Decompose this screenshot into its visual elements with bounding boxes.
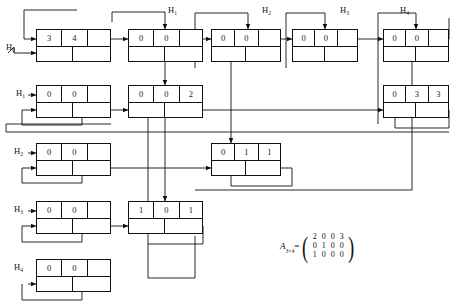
node-cell: 4 — [62, 30, 87, 46]
list-node[interactable]: 00 — [36, 201, 111, 234]
node-top-row: 00 — [37, 144, 110, 161]
node-bottom-row — [37, 219, 110, 235]
node-pointer-cell — [37, 277, 73, 293]
node-bottom-row — [37, 161, 110, 177]
list-node[interactable]: 00 — [36, 85, 111, 118]
node-pointer-cell — [246, 161, 280, 177]
node-cell — [180, 30, 202, 46]
matrix-row: 1000 — [310, 251, 346, 260]
head-pointer-label: H4 — [14, 262, 23, 272]
node-cell — [338, 30, 357, 46]
list-node[interactable]: 00 — [211, 29, 281, 62]
head-pointer-label: H1 — [16, 88, 25, 98]
node-cell: 0 — [384, 86, 406, 102]
node-cell — [88, 260, 110, 276]
node-pointer-cell — [37, 103, 73, 119]
node-pointer-cell — [129, 219, 165, 235]
node-pointer-cell — [129, 103, 165, 119]
list-node[interactable]: 00 — [292, 29, 358, 62]
node-cell: 0 — [406, 30, 428, 46]
head-label-index: 3 — [20, 209, 23, 215]
node-pointer-cell — [73, 219, 110, 235]
matrix-left-paren: ( — [302, 235, 308, 258]
diagram-canvas: 340000000000002033000110010100 H0H1H2H3H… — [0, 0, 452, 306]
head-label-index: 4 — [20, 267, 23, 273]
node-cell: 0 — [37, 202, 62, 218]
matrix-equals: = — [294, 241, 299, 251]
node-bottom-row — [129, 219, 202, 235]
head-pointer-label: H1 — [168, 5, 177, 15]
node-bottom-row — [384, 103, 448, 119]
list-node[interactable]: 033 — [383, 85, 449, 118]
node-top-row: 34 — [37, 30, 110, 47]
list-node[interactable]: 00 — [128, 29, 203, 62]
node-pointer-cell — [293, 47, 325, 63]
node-pointer-cell — [73, 277, 110, 293]
head-pointer-label: H3 — [340, 5, 349, 15]
node-cell — [259, 30, 280, 46]
node-cell — [88, 86, 110, 102]
node-top-row: 011 — [212, 144, 280, 161]
node-pointer-cell — [384, 103, 416, 119]
node-cell: 0 — [154, 86, 179, 102]
node-cell: 0 — [37, 86, 62, 102]
node-cell: 0 — [235, 30, 258, 46]
node-cell: 0 — [62, 202, 87, 218]
node-pointer-cell — [165, 47, 202, 63]
node-cell: 0 — [62, 260, 87, 276]
node-bottom-row — [37, 47, 110, 63]
node-top-row: 00 — [37, 260, 110, 277]
node-cell: 3 — [429, 86, 448, 102]
list-node[interactable]: 101 — [128, 201, 203, 234]
node-bottom-row — [212, 47, 280, 63]
node-top-row: 033 — [384, 86, 448, 103]
node-cell: 3 — [37, 30, 62, 46]
node-top-row: 002 — [129, 86, 202, 103]
node-cell — [88, 144, 110, 160]
node-top-row: 00 — [37, 86, 110, 103]
node-bottom-row — [384, 47, 448, 63]
head-pointer-label: H2 — [14, 146, 23, 156]
node-pointer-cell — [212, 161, 246, 177]
adjacency-matrix: A3×4 = ( 200301001000 ) — [280, 233, 356, 260]
node-pointer-cell — [325, 47, 357, 63]
node-top-row: 00 — [212, 30, 280, 47]
node-cell: 1 — [235, 144, 258, 160]
node-cell: 0 — [129, 30, 154, 46]
node-pointer-cell — [416, 47, 448, 63]
head-label-index: 4 — [406, 10, 409, 16]
list-node[interactable]: 00 — [36, 143, 111, 176]
node-bottom-row — [293, 47, 357, 63]
head-pointer-label: H4 — [400, 5, 409, 15]
node-top-row: 00 — [37, 202, 110, 219]
node-bottom-row — [129, 103, 202, 119]
node-cell: 1 — [129, 202, 154, 218]
head-label-index: 2 — [268, 10, 271, 16]
node-pointer-cell — [246, 47, 280, 63]
node-cell: 0 — [212, 144, 235, 160]
node-cell: 0 — [315, 30, 337, 46]
node-cell: 1 — [180, 202, 202, 218]
node-pointer-cell — [37, 161, 73, 177]
list-node[interactable]: 34 — [36, 29, 111, 62]
node-top-row: 00 — [384, 30, 448, 47]
node-cell: 0 — [384, 30, 406, 46]
node-cell: 0 — [62, 144, 87, 160]
node-pointer-cell — [73, 47, 110, 63]
matrix-right-paren: ) — [348, 235, 354, 258]
node-cell: 1 — [259, 144, 280, 160]
node-bottom-row — [212, 161, 280, 177]
head-pointer-label: H0 — [6, 42, 15, 52]
head-pointer-label: H2 — [262, 5, 271, 15]
matrix-cell: 0 — [337, 251, 346, 260]
node-pointer-cell — [165, 103, 202, 119]
list-node[interactable]: 00 — [383, 29, 449, 62]
list-node[interactable]: 00 — [36, 259, 111, 292]
node-bottom-row — [129, 47, 202, 63]
node-pointer-cell — [212, 47, 246, 63]
list-node[interactable]: 011 — [211, 143, 281, 176]
node-pointer-cell — [384, 47, 416, 63]
head-label-index: 0 — [12, 47, 15, 53]
list-node[interactable]: 002 — [128, 85, 203, 118]
head-label-index: 1 — [174, 10, 177, 16]
